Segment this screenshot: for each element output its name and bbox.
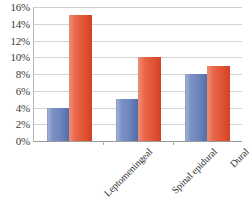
y-axis-tick-label: 14% <box>0 18 30 29</box>
x-axis-tick <box>173 141 174 145</box>
y-axis-tick-label: 4% <box>0 102 30 113</box>
y-axis-line <box>33 7 34 142</box>
y-axis-tick-label: 16% <box>0 2 30 13</box>
plot-area <box>34 7 242 141</box>
y-axis-tick-label: 12% <box>0 35 30 46</box>
gridline <box>34 41 242 42</box>
y-axis-tick-label: 8% <box>0 69 30 80</box>
y-axis-tick-label: 2% <box>0 119 30 130</box>
x-axis-category-labels: LeptomeningealSpinal epiduralDural <box>0 142 249 210</box>
bar-series-2 <box>138 57 161 141</box>
bar-series-2 <box>69 15 92 141</box>
bar-chart: 0%2%4%6%8%10%12%14%16% LeptomeningealSpi… <box>0 0 249 210</box>
x-axis-category-label: Dural <box>228 146 249 170</box>
x-axis-category-label: Spinal epidural <box>169 146 219 196</box>
bar-series-1 <box>116 99 139 141</box>
y-axis-tick-labels: 0%2%4%6%8%10%12%14%16% <box>0 0 30 142</box>
bar-series-1 <box>185 74 208 141</box>
x-axis-category-label: Leptomeningeal <box>101 146 154 199</box>
y-axis-tick-label: 6% <box>0 85 30 96</box>
bar-series-1 <box>47 108 70 142</box>
x-axis-tick <box>103 141 104 145</box>
gridline <box>34 24 242 25</box>
gridline <box>34 7 242 8</box>
bar-series-2 <box>207 66 230 141</box>
y-axis-tick-label: 10% <box>0 52 30 63</box>
